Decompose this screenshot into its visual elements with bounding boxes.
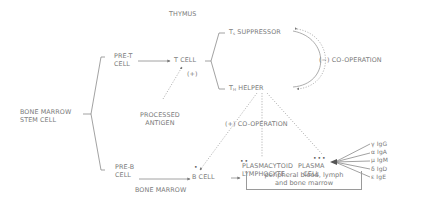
b-cell-dot: • — [194, 163, 199, 170]
t-subscript: s — [233, 31, 235, 36]
pre-b-line2: CELL — [115, 172, 134, 180]
neg-cooperation-label: (−) CO-OPERATION — [319, 57, 382, 65]
ig-item-ige: ε IgE — [371, 173, 388, 181]
b-cell-label: B CELL — [192, 174, 215, 182]
helper-text: HELPER — [238, 84, 263, 92]
pos-cooperation-label: (+) CO-OPERATION — [225, 121, 288, 129]
thymus-label: THYMUS — [169, 11, 196, 19]
ig-label: IgG — [377, 140, 388, 147]
mu-symbol: μ — [371, 156, 375, 163]
ig-item-iga: α IgA — [371, 148, 388, 156]
t-cell-branch-line — [211, 33, 225, 89]
plus-sign-label: (+) — [187, 71, 198, 79]
t-subscript: H — [233, 87, 236, 92]
ig-label: IgM — [377, 156, 388, 163]
fan-origin-arrow — [330, 159, 337, 165]
t-helper-label: TH HELPER — [229, 85, 264, 94]
antigen-line2: ANTIGEN — [140, 120, 180, 128]
pre-b-cell-label: PRE-B CELL — [115, 164, 134, 179]
alpha-symbol: α — [371, 148, 375, 155]
delta-symbol: δ — [371, 165, 375, 172]
t-suppressor-label: Ts SUPPRESSOR — [229, 29, 281, 38]
ig-label: IgE — [376, 173, 386, 180]
ig-list: γ IgG α IgA μ IgM δ IgD ε IgE — [371, 140, 388, 181]
stem-branch-line — [91, 57, 105, 170]
processed-antigen-label: PROCESSED ANTIGEN — [140, 112, 180, 127]
pre-t-cell-label: PRE-T CELL — [114, 53, 132, 68]
suppressor-text: SUPPRESSOR — [237, 28, 281, 36]
ig-item-igg: γ IgG — [371, 140, 388, 148]
pre-t-line2: CELL — [114, 61, 132, 69]
ig-label: IgA — [377, 148, 387, 155]
antigen-to-t-cell-dotted — [163, 67, 182, 99]
plasma-cell-dots: ••• — [313, 154, 327, 161]
epsilon-symbol: ε — [371, 173, 374, 180]
ig-label: IgD — [377, 165, 388, 172]
stem-cell-line2: STEM CELL — [20, 117, 71, 125]
gamma-symbol: γ — [371, 140, 375, 147]
bone-marrow-region-label: BONE MARROW — [135, 187, 186, 195]
bone-marrow-stem-cell-label: BONE MARROW STEM CELL — [20, 109, 71, 124]
ig-item-igd: δ IgD — [371, 165, 388, 173]
ig-item-igm: μ IgM — [371, 156, 388, 164]
t-cell-label: T CELL — [174, 57, 196, 65]
location-line2: and bone marrow — [252, 180, 356, 188]
location-note: peripheral blood, lymph and bone marrow — [252, 172, 356, 187]
